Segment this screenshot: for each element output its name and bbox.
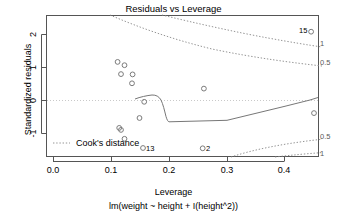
data-point-15: [309, 29, 314, 34]
legend-cooks-distance-label: Cook's distance: [76, 139, 139, 148]
data-point: [137, 116, 142, 121]
y-axis: [42, 35, 47, 134]
residuals-vs-leverage-plot: Residuals vs Leverage: [0, 0, 347, 221]
model-formula-subtitle: lm(weight ~ height + I(height^2)): [0, 202, 347, 211]
point-label-13: 13: [146, 145, 154, 153]
data-point: [202, 86, 207, 91]
plot-frame: [47, 16, 319, 157]
contour-label-upper-05: 0.5: [320, 59, 330, 67]
data-points: [115, 29, 316, 150]
point-label-2: 2: [206, 145, 210, 153]
cooks-contour-lower-05: [231, 139, 322, 157]
data-point: [312, 111, 317, 116]
x-axis-label: Leverage: [0, 188, 347, 197]
cooks-contour-upper-05: [110, 15, 322, 66]
x-tick-label-4: 0.4: [278, 166, 291, 175]
data-point: [130, 81, 135, 86]
contour-label-lower-05: 0.5: [320, 133, 330, 141]
x-tick-label-2: 0.2: [163, 166, 176, 175]
data-point: [122, 63, 127, 68]
contour-label-upper-1: 1: [320, 40, 324, 48]
x-tick-label-3: 0.3: [221, 166, 234, 175]
point-label-15: 15: [299, 27, 307, 35]
contour-label-lower-1: 1: [320, 150, 324, 158]
data-point: [130, 72, 135, 77]
cooks-distance-contours: [110, 15, 322, 157]
y-axis-label: Standardized residuals: [24, 10, 33, 170]
data-point-13: [141, 146, 146, 151]
data-point-2: [200, 146, 205, 151]
x-tick-label-0: 0.0: [47, 166, 60, 175]
x-axis: [53, 157, 285, 162]
data-point: [115, 60, 120, 65]
x-tick-label-1: 0.1: [105, 166, 118, 175]
data-point: [142, 99, 147, 104]
data-point: [119, 72, 124, 77]
loess-smoother-line: [135, 95, 318, 122]
